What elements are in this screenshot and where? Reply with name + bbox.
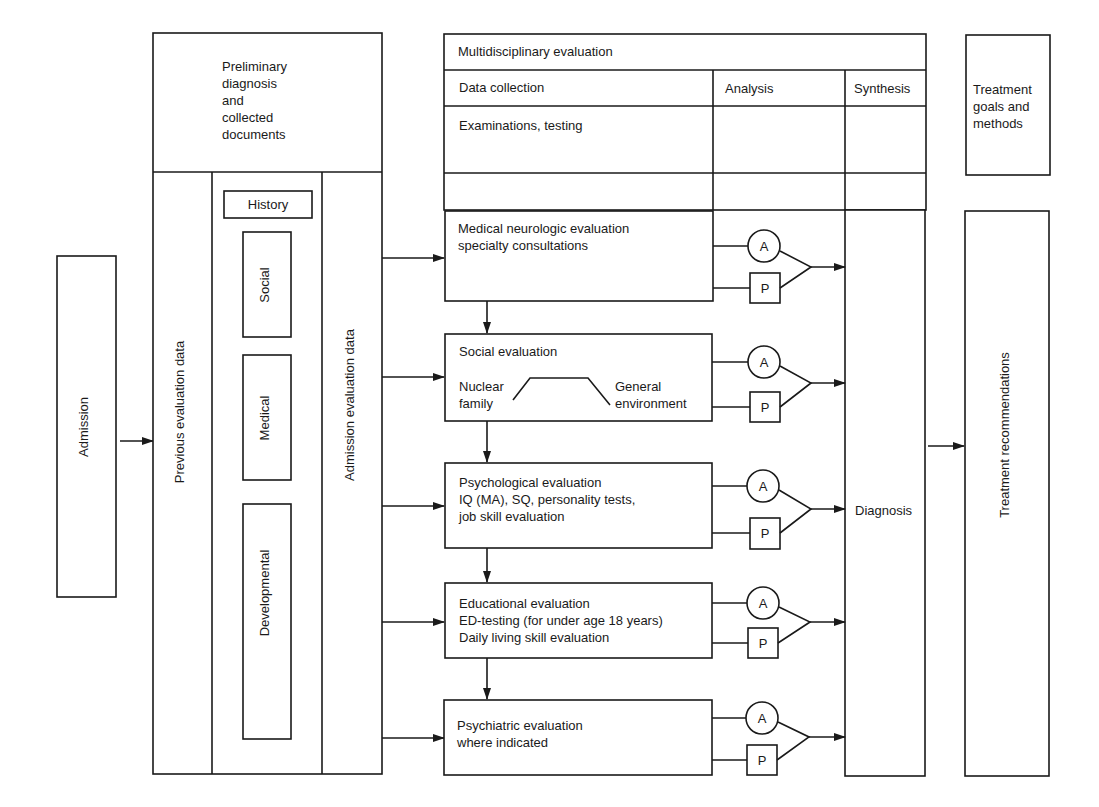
admission-label: Admission xyxy=(76,377,96,477)
history-social-label: Social xyxy=(257,245,277,325)
history-medical-label: Medical xyxy=(257,378,277,458)
node-a-2: A xyxy=(754,354,774,371)
eval-educational-text: Educational evaluation ED-testing (for u… xyxy=(459,595,663,646)
node-p-1: P xyxy=(755,280,775,297)
analysis-node-4 xyxy=(712,587,845,658)
examinations-testing-label: Examinations, testing xyxy=(459,117,583,134)
column-data-collection: Data collection xyxy=(459,79,544,96)
analysis-node-3 xyxy=(712,470,845,549)
node-p-5: P xyxy=(752,752,772,769)
analysis-node-2 xyxy=(712,346,845,422)
column-synthesis: Synthesis xyxy=(854,80,910,97)
node-p-3: P xyxy=(755,525,775,542)
preliminary-diagnosis-label: Preliminary diagnosis and collected docu… xyxy=(222,58,287,143)
treatment-recommendations-label: Treatment recommendations xyxy=(997,345,1017,525)
eval-medical-text: Medical neurologic evaluation specialty … xyxy=(458,220,629,254)
node-a-1: A xyxy=(754,238,774,255)
column-analysis: Analysis xyxy=(725,80,773,97)
previous-evaluation-label: Previous evaluation data xyxy=(172,332,192,492)
history-label: History xyxy=(224,196,312,213)
eval-social-right-note: General environment xyxy=(615,378,687,412)
synthesis-column xyxy=(845,210,925,776)
node-p-4: P xyxy=(753,635,773,652)
analysis-node-1 xyxy=(713,230,845,303)
multidisciplinary-title: Multidisciplinary evaluation xyxy=(458,43,613,60)
node-a-5: A xyxy=(752,710,772,727)
eval-psychiatric-text: Psychiatric evaluation where indicated xyxy=(457,717,583,751)
admission-evaluation-label: Admission evaluation data xyxy=(342,325,362,485)
analysis-node-5 xyxy=(712,702,845,775)
eval-psychological-text: Psychological evaluation IQ (MA), SQ, pe… xyxy=(459,474,635,525)
history-developmental-label: Developmental xyxy=(257,543,277,643)
node-a-4: A xyxy=(753,595,773,612)
eval-social-left-note: Nuclear family xyxy=(459,378,504,412)
node-a-3: A xyxy=(753,478,773,495)
node-p-2: P xyxy=(755,399,775,416)
treatment-goals-label: Treatment goals and methods xyxy=(973,81,1032,132)
eval-social-title: Social evaluation xyxy=(459,343,557,360)
diagnosis-label: Diagnosis xyxy=(855,502,912,519)
